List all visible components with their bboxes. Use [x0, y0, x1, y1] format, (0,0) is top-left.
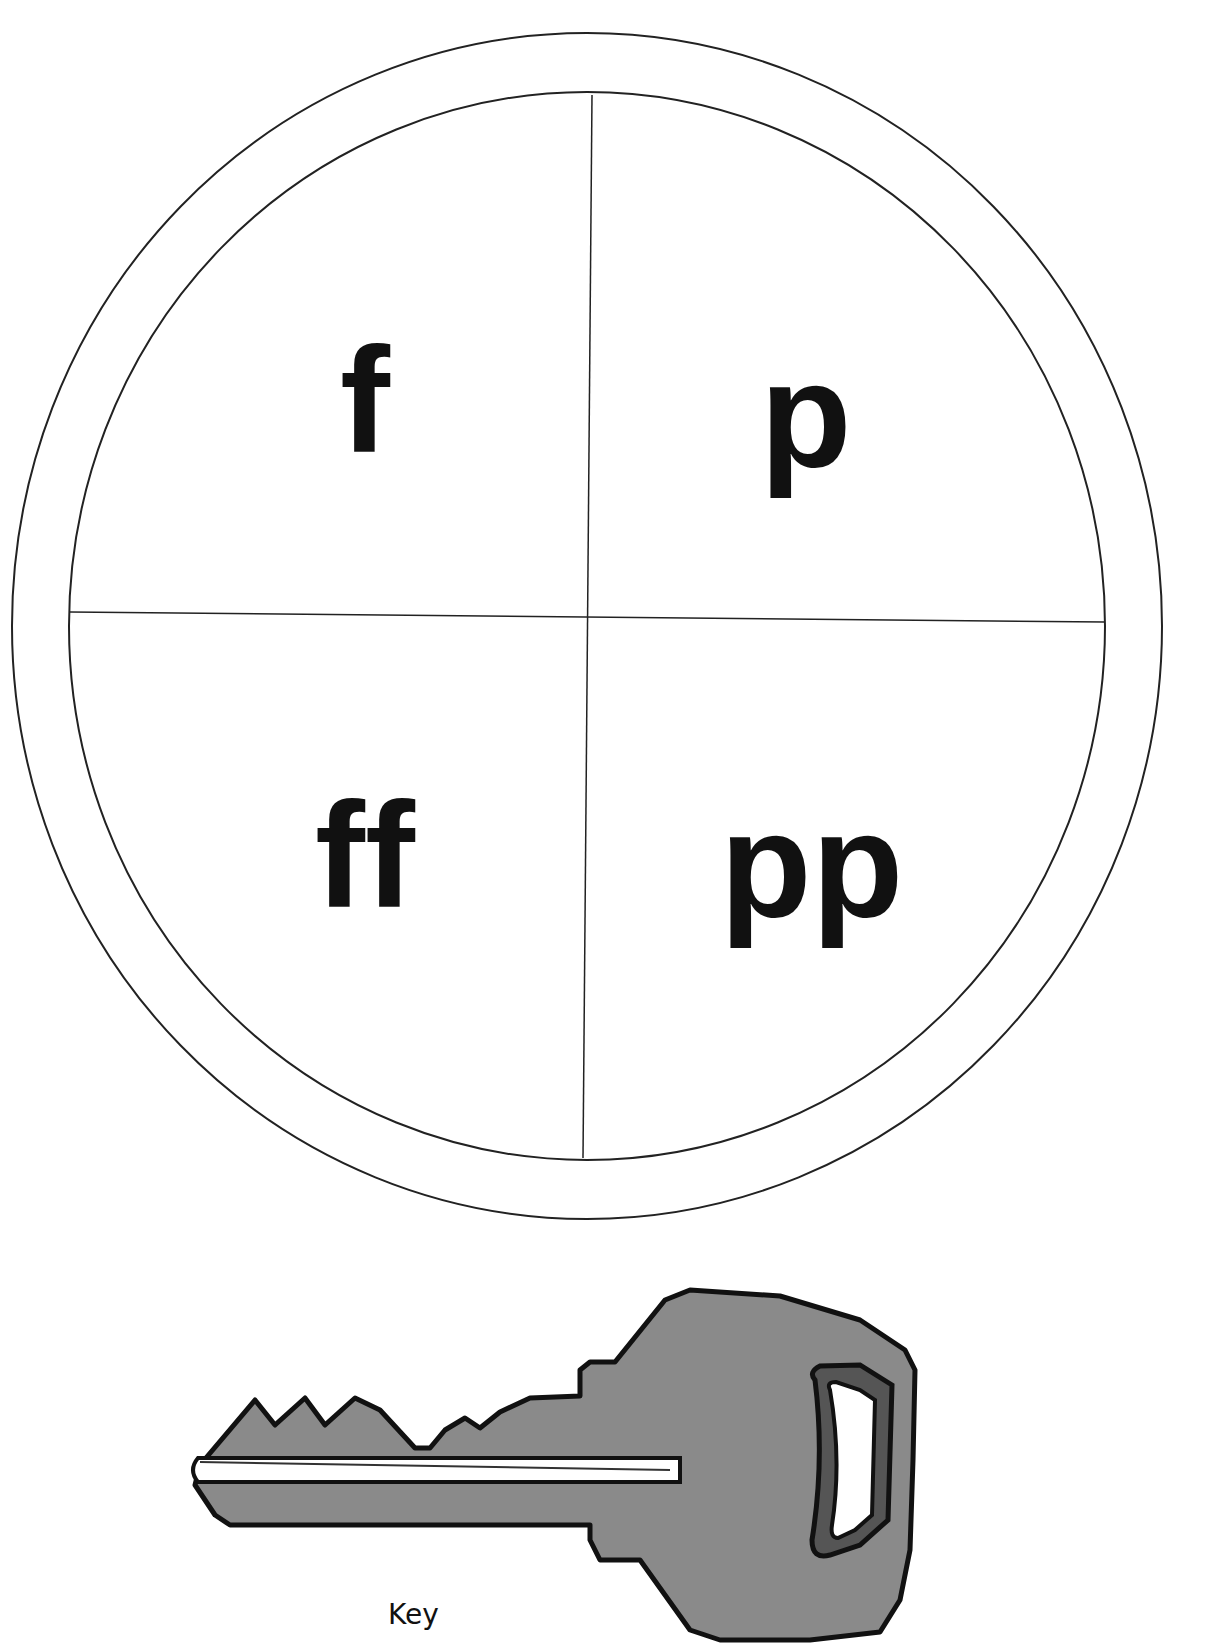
- key-caption: Key: [388, 1598, 439, 1631]
- vertical-divider: [583, 95, 592, 1158]
- quadrant-label-bottom-right: pp: [720, 790, 903, 940]
- key-icon: [193, 1290, 915, 1640]
- worksheet-art: [0, 0, 1207, 1646]
- quadrant-label-bottom-left: ff: [315, 780, 415, 930]
- quadrant-label-top-right: p: [760, 340, 852, 490]
- letter-wheel: [12, 33, 1162, 1219]
- quadrant-label-top-left: f: [340, 325, 390, 475]
